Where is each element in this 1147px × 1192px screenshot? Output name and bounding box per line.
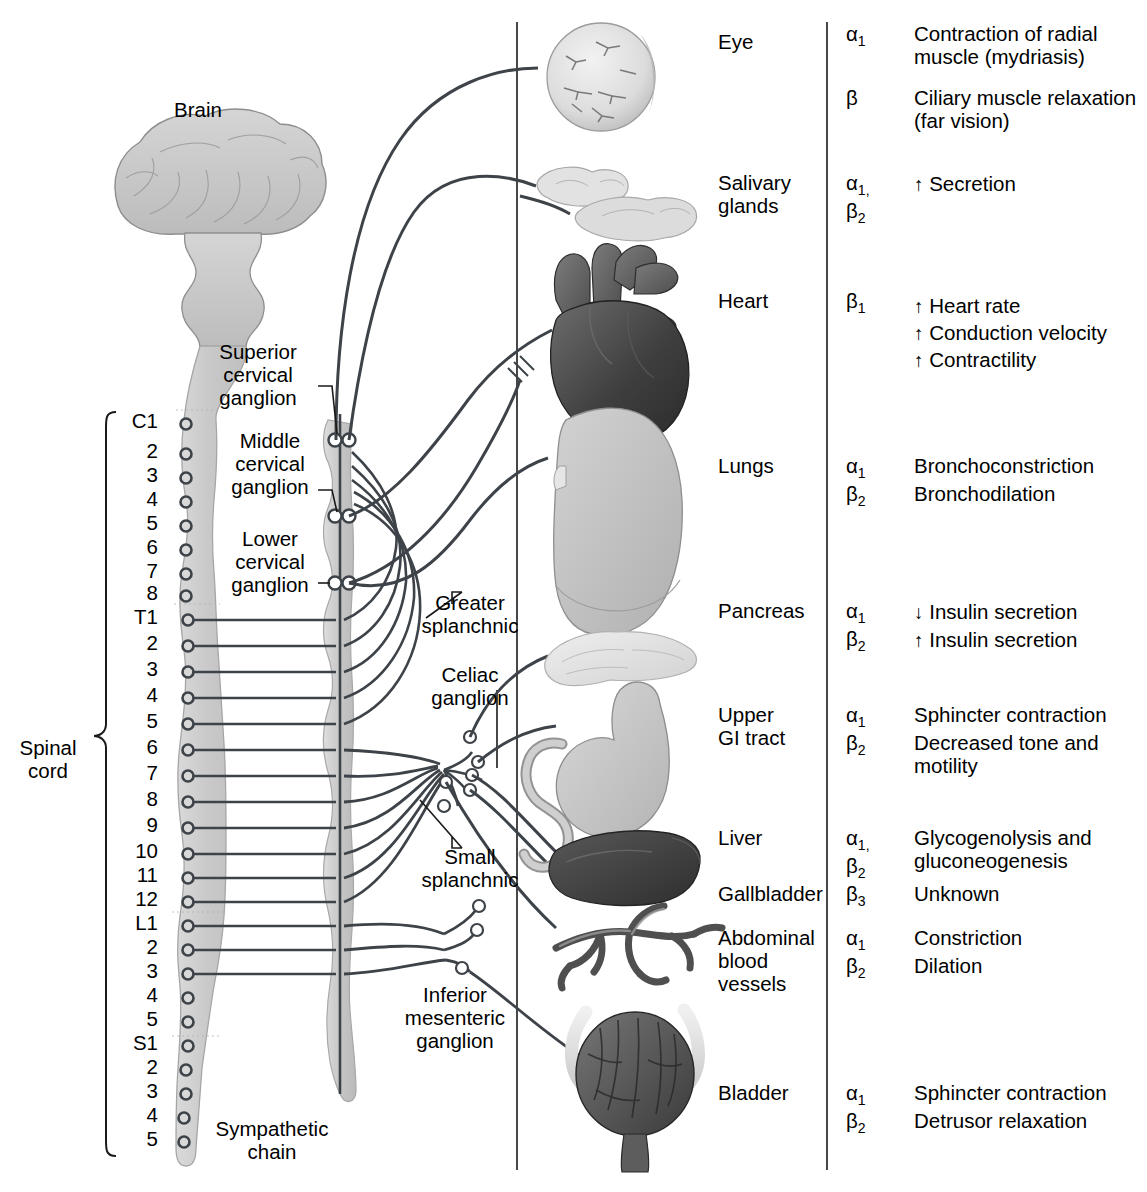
- trend-arrow-icon: ↑: [914, 174, 924, 195]
- spinal-segment-label-s1-25: S1: [116, 1032, 158, 1055]
- organ-label-pancreas: Pancreas: [718, 600, 805, 623]
- spinal-segment-label-3-10: 3: [116, 658, 158, 681]
- receptor-abdominal-blood-vessels-0: α1: [846, 927, 866, 954]
- spinal-segment-label-2-26: 2: [116, 1056, 158, 1079]
- receptor-heart-0: β1: [846, 290, 866, 317]
- spinal-segment-label-12-19: 12: [116, 888, 158, 911]
- spinal-segment-label-3-22: 3: [116, 960, 158, 983]
- spinal-segment-label-6-5: 6: [116, 536, 158, 559]
- anatomy-label-brain: Brain: [78, 99, 318, 122]
- anatomy-label-greater-splanchnic: Greatersplanchnic: [350, 592, 590, 638]
- spinal-segment-label-10-17: 10: [116, 840, 158, 863]
- anatomy-label-middle-cervical-ganglion: Middlecervicalganglion: [150, 430, 390, 499]
- organ-label-eye: Eye: [718, 31, 753, 54]
- organ-label-heart: Heart: [718, 290, 768, 313]
- effect-lungs-0: Bronchoconstriction: [914, 455, 1094, 478]
- spinal-segment-label-4-3: 4: [116, 488, 158, 511]
- anatomy-label-inferior-mesenteric-ganglion: Inferiormesentericganglion: [335, 984, 575, 1053]
- effect-heart-0: ↑ Heart rate: [914, 295, 1020, 318]
- effect-upper-gi-tract-1: Decreased tone andmotility: [914, 732, 1099, 778]
- spinal-segment-label-6-13: 6: [116, 736, 158, 759]
- spinal-segment-label-7-14: 7: [116, 762, 158, 785]
- salivary-glands-illustration: [537, 167, 696, 241]
- receptor-salivary-glands-1: β2: [846, 200, 866, 227]
- effect-abdominal-blood-vessels-1: Dilation: [914, 955, 982, 978]
- spinal-segment-label-8-7: 8: [116, 582, 158, 605]
- spinal-segment-label-5-12: 5: [116, 710, 158, 733]
- organ-label-gallbladder: Gallbladder: [718, 883, 823, 906]
- receptor-gallbladder-0: β3: [846, 883, 866, 910]
- receptor-eye-0: α1: [846, 23, 866, 50]
- effect-heart-1: ↑ Conduction velocity: [914, 322, 1107, 345]
- receptor-bladder-1: β2: [846, 1110, 866, 1137]
- trend-arrow-icon: ↑: [914, 296, 924, 317]
- organ-label-upper-gi-tract: UpperGI tract: [718, 704, 785, 750]
- spinal-segment-label-2-1: 2: [116, 440, 158, 463]
- spinal-segment-label-7-6: 7: [116, 560, 158, 583]
- blood-vessels-illustration: [556, 906, 722, 988]
- anatomy-label-superior-cervical-ganglion: Superiorcervicalganglion: [138, 341, 378, 410]
- receptor-abdominal-blood-vessels-1: β2: [846, 955, 866, 982]
- bladder-illustration: [572, 1010, 699, 1172]
- spinal-segment-label-11-18: 11: [116, 864, 158, 887]
- spinal-segment-label-4-23: 4: [116, 984, 158, 1007]
- effect-bladder-0: Sphincter contraction: [914, 1082, 1107, 1105]
- spinal-segment-label-4-11: 4: [116, 684, 158, 707]
- postganglionic-fibers-head: [336, 68, 570, 586]
- spinal-segment-label-l1-20: L1: [116, 912, 158, 935]
- anatomy-label-small-splanchnic: Smallsplanchnic: [350, 846, 590, 892]
- spinal-segment-label-t1-8: T1: [116, 606, 158, 629]
- spinal-segment-label-4-28: 4: [116, 1104, 158, 1127]
- effect-upper-gi-tract-0: Sphincter contraction: [914, 704, 1107, 727]
- organ-label-liver: Liver: [718, 827, 762, 850]
- sympathetic-nervous-system-diagram: BrainSpinalcordSuperiorcervicalganglionM…: [0, 0, 1147, 1192]
- spinal-segment-label-5-24: 5: [116, 1008, 158, 1031]
- trend-arrow-icon: ↓: [914, 602, 924, 623]
- effect-abdominal-blood-vessels-0: Constriction: [914, 927, 1022, 950]
- fiber-crossing-marks: [508, 356, 534, 382]
- effect-pancreas-1: ↑ Insulin secretion: [914, 629, 1077, 652]
- organ-label-bladder: Bladder: [718, 1082, 789, 1105]
- spinal-segment-label-c1-0: C1: [116, 410, 158, 433]
- eye-illustration: [547, 23, 655, 131]
- receptor-lungs-1: β2: [846, 483, 866, 510]
- spinal-cord-bracket: [94, 412, 116, 1156]
- anatomy-label-celiac-ganglion: Celiacganglion: [350, 664, 590, 710]
- receptor-bladder-0: α1: [846, 1082, 866, 1109]
- receptor-pancreas-0: α1: [846, 600, 866, 627]
- spinal-segment-label-8-15: 8: [116, 788, 158, 811]
- effect-eye-0: Contraction of radialmuscle (mydriasis): [914, 23, 1097, 69]
- effect-lungs-1: Bronchodilation: [914, 483, 1055, 506]
- receptor-eye-1: β: [846, 87, 858, 110]
- brain-illustration: [115, 109, 326, 348]
- effect-liver-0: Glycogenolysis andgluconeogenesis: [914, 827, 1092, 873]
- receptor-upper-gi-tract-1: β2: [846, 732, 866, 759]
- spinal-segment-label-5-29: 5: [116, 1128, 158, 1151]
- trend-arrow-icon: ↑: [914, 630, 924, 651]
- receptor-lungs-0: α1: [846, 455, 866, 482]
- spinal-segment-label-9-16: 9: [116, 814, 158, 837]
- effect-gallbladder-0: Unknown: [914, 883, 999, 906]
- receptor-salivary-glands-0: α1,: [846, 172, 870, 199]
- receptor-upper-gi-tract-0: α1: [846, 704, 866, 731]
- effect-salivary-glands-0: ↑ Secretion: [914, 173, 1016, 196]
- effect-heart-2: ↑ Contractility: [914, 349, 1036, 372]
- effect-pancreas-0: ↓ Insulin secretion: [914, 601, 1077, 624]
- anatomy-label-lower-cervical-ganglion: Lowercervicalganglion: [150, 528, 390, 597]
- effect-bladder-1: Detrusor relaxation: [914, 1110, 1087, 1133]
- spinal-segment-label-3-2: 3: [116, 464, 158, 487]
- organ-label-salivary-glands: Salivaryglands: [718, 172, 791, 218]
- organ-label-lungs: Lungs: [718, 455, 774, 478]
- spinal-segment-label-3-27: 3: [116, 1080, 158, 1103]
- organ-label-abdominal-blood-vessels: Abdominalbloodvessels: [718, 927, 815, 996]
- trend-arrow-icon: ↑: [914, 323, 924, 344]
- anatomy-label-sympathetic-chain: Sympatheticchain: [152, 1118, 392, 1164]
- receptor-liver-0: α1,: [846, 827, 870, 854]
- spinal-segment-label-2-9: 2: [116, 632, 158, 655]
- spinal-segment-label-5-4: 5: [116, 512, 158, 535]
- trend-arrow-icon: ↑: [914, 350, 924, 371]
- receptor-liver-1: β2: [846, 855, 866, 882]
- effect-eye-1: Ciliary muscle relaxation(far vision): [914, 87, 1136, 133]
- spinal-segment-label-2-21: 2: [116, 936, 158, 959]
- receptor-pancreas-1: β2: [846, 628, 866, 655]
